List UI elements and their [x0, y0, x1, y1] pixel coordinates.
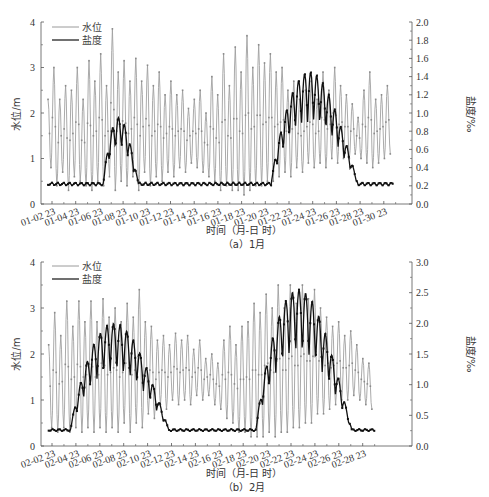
y-tick-right-label: 1.5 — [416, 349, 429, 360]
y-tick-right-label: 2.0 — [416, 318, 429, 329]
chart-panel-january: 012340.00.20.40.60.81.01.21.41.61.82.001… — [10, 17, 477, 251]
salinity-line — [49, 290, 375, 431]
water-level-line — [48, 29, 390, 195]
y-tick-right-label: 1.0 — [416, 379, 429, 390]
y-tick-right-label: 1.6 — [416, 53, 429, 64]
x-axis-title-february: 时间（月-日 时） — [206, 467, 283, 479]
y-axis-right-title-january: 盐度/‰ — [465, 96, 477, 133]
y-tick-right-label: 1.2 — [416, 89, 429, 100]
y-tick-right-label: 2.0 — [416, 17, 429, 28]
chart-panel-february: 012340.00.51.01.52.02.53.002-02 2302-04 … — [10, 257, 477, 494]
y-tick-left-label: 3 — [30, 62, 35, 73]
y-tick-left-label: 4 — [30, 257, 35, 268]
y-tick-right-label: 0.2 — [416, 180, 429, 191]
caption-january: （a）1月 — [223, 239, 266, 250]
legend-february: 水位 盐度 — [52, 260, 102, 285]
y-tick-right-label: 3.0 — [416, 257, 429, 268]
y-tick-left-label: 3 — [30, 303, 35, 314]
x-axis-title-january: 时间（月-日 时） — [206, 224, 283, 236]
y-tick-right-label: 1.8 — [416, 35, 429, 46]
plot-lines-january — [47, 28, 394, 196]
y-axis-left-title-january: 水位/m — [10, 97, 22, 130]
y-tick-left-label: 2 — [30, 108, 35, 119]
y-tick-right-label: 0.0 — [416, 441, 429, 452]
tide-salinity-figure: 012340.00.20.40.60.81.01.21.41.61.82.001… — [0, 0, 489, 497]
y-tick-right-label: 1.0 — [416, 108, 429, 119]
y-tick-right-label: 0.5 — [416, 410, 429, 421]
legend-january: 水位 盐度 — [52, 21, 102, 46]
y-tick-right-label: 0.8 — [416, 126, 429, 137]
y-tick-right-label: 2.5 — [416, 287, 429, 298]
legend-salinity-label: 盐度 — [82, 34, 102, 46]
y-tick-right-label: 0.4 — [416, 162, 429, 173]
axes-january: 012340.00.20.40.60.81.01.21.41.61.82.001… — [19, 17, 428, 229]
legend-water-level-label: 水位 — [82, 21, 102, 33]
plot-lines-february — [48, 284, 376, 437]
y-tick-left-label: 0 — [30, 199, 35, 210]
y-tick-right-label: 1.4 — [416, 71, 429, 82]
y-axis-right-title-february: 盐度/‰ — [465, 336, 477, 373]
y-tick-left-label: 1 — [30, 153, 35, 164]
caption-february: （b）2月 — [223, 482, 266, 493]
y-tick-left-label: 1 — [30, 395, 35, 406]
legend-water-level-label: 水位 — [82, 260, 102, 272]
y-tick-left-label: 2 — [30, 349, 35, 360]
y-tick-left-label: 4 — [30, 17, 35, 28]
y-tick-left-label: 0 — [30, 441, 35, 452]
y-tick-right-label: 0.0 — [416, 199, 429, 210]
y-tick-right-label: 0.6 — [416, 144, 429, 155]
legend-salinity-label: 盐度 — [82, 273, 102, 285]
y-axis-left-title-february: 水位/m — [10, 337, 22, 370]
